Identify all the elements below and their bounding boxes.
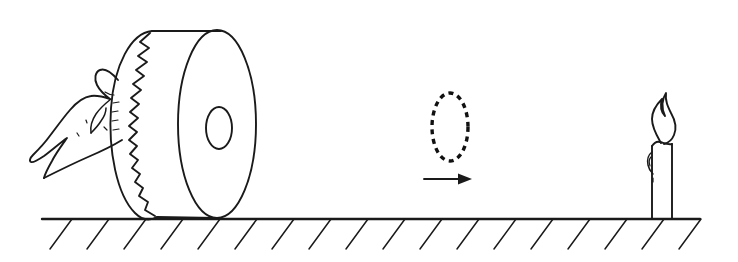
hatch-mark (494, 219, 516, 249)
hand-fold-detail (77, 133, 79, 136)
hatch-mark (605, 219, 627, 249)
hatch-mark (124, 219, 146, 249)
ground-group (42, 219, 701, 249)
drum-near-face-outline (110, 31, 157, 219)
sound-pulse-group (432, 93, 468, 161)
hatch-mark (679, 219, 701, 249)
hatch-mark (568, 219, 590, 249)
hatch-mark (87, 219, 109, 249)
drum-far-face (178, 30, 256, 218)
figure-root: Sound from a drum travels through air an… (0, 0, 738, 262)
candle-flame (652, 93, 675, 144)
hand-outline (30, 70, 118, 178)
candle-wax-drip-detail (649, 157, 651, 166)
hatch-mark (161, 219, 183, 249)
ground-hatching (50, 219, 701, 249)
drum-group (110, 30, 256, 219)
hatch-mark (457, 219, 479, 249)
hatch-mark (383, 219, 405, 249)
hatch-mark (346, 219, 368, 249)
hatch-mark (420, 219, 442, 249)
contact-tick (112, 120, 118, 121)
hatch-mark (272, 219, 294, 249)
drum-bottom-edge (157, 217, 215, 218)
contact-tick (113, 102, 119, 103)
arrow-head (458, 174, 472, 185)
hatch-mark (198, 219, 220, 249)
direction-arrow-group (424, 174, 472, 185)
sound-wave-diagram: Sound from a drum travels through air an… (0, 0, 738, 262)
hatch-mark (309, 219, 331, 249)
contact-tick (113, 129, 119, 130)
sound-pulse-ellipse (432, 93, 468, 161)
hand-fold-detail (86, 120, 87, 123)
drum-hole (206, 107, 232, 149)
hand-group (30, 70, 122, 178)
contact-tick (104, 127, 107, 130)
candle-group (648, 93, 676, 219)
drumhead-vibration-line (129, 33, 155, 216)
hatch-mark (50, 219, 72, 249)
hatch-mark (235, 219, 257, 249)
contact-tick (112, 111, 118, 112)
hatch-mark (531, 219, 553, 249)
hand-finger-crease (91, 99, 111, 133)
hatch-mark (642, 219, 664, 249)
